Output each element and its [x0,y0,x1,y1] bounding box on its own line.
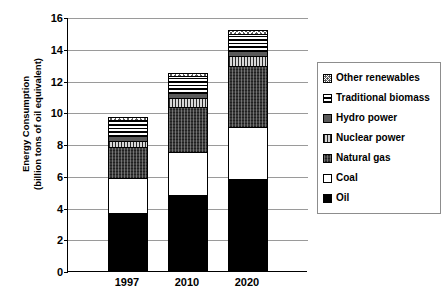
plot-area: 0246810121416 [67,18,307,272]
tick-mark [64,113,68,114]
legend-swatch-icon [323,154,332,163]
bar-segment[interactable] [229,67,267,128]
y-axis-tick-label: 16 [51,12,63,24]
bar-segment[interactable] [229,180,267,270]
gridline [68,18,308,19]
legend-item[interactable]: Natural gas [318,148,440,168]
bar-segment[interactable] [169,108,207,153]
bar-segment[interactable] [229,57,267,66]
gridline [68,50,308,51]
y-axis-tick-label: 2 [57,234,63,246]
legend-item[interactable]: Coal [318,168,440,188]
legend-item[interactable]: Other renewables [318,68,440,88]
legend-label: Traditional biomass [336,93,430,103]
bar-1997[interactable] [108,117,148,271]
legend-label: Oil [336,193,349,203]
bar-segment[interactable] [109,179,147,213]
y-axis-tick-label: 6 [57,171,63,183]
legend-label: Hydro power [336,113,397,123]
y-axis-tick-label: 4 [57,203,63,215]
bar-segment[interactable] [109,214,147,270]
bar-segment[interactable] [169,196,207,270]
legend-item[interactable]: Oil [318,188,440,208]
legend-label: Natural gas [336,153,390,163]
y-axis-title: Energy Consumption (billion tons of oil … [20,24,44,224]
legend-item[interactable]: Nuclear power [318,128,440,148]
x-axis-tick-label: 2020 [207,276,287,288]
legend-item[interactable]: Traditional biomass [318,88,440,108]
chart-legend: Other renewablesTraditional biomassHydro… [317,62,441,214]
legend-swatch-icon [323,134,332,143]
tick-mark [64,209,68,210]
bar-segment[interactable] [109,148,147,179]
tick-mark [64,50,68,51]
legend-swatch-icon [323,94,332,103]
chart-container: Energy Consumption (billion tons of oil … [0,0,447,304]
y-axis-tick-label: 8 [57,139,63,151]
bar-segment[interactable] [229,128,267,180]
bar-segment[interactable] [169,99,207,108]
legend-item[interactable]: Hydro power [318,108,440,128]
bar-2020[interactable] [228,30,268,271]
bar-segment[interactable] [229,35,267,52]
legend-label: Other renewables [336,73,420,83]
bar-segment[interactable] [169,153,207,196]
tick-mark [64,18,68,19]
bar-segment[interactable] [109,121,147,137]
bar-segment[interactable] [169,77,207,94]
y-axis-tick-label: 14 [51,44,63,56]
y-axis-tick-label: 10 [51,107,63,119]
tick-mark [64,272,68,273]
legend-swatch-icon [323,174,332,183]
tick-mark [64,145,68,146]
legend-swatch-icon [323,74,332,83]
tick-mark [64,82,68,83]
y-axis-tick-label: 0 [57,266,63,278]
legend-swatch-icon [323,194,332,203]
bar-2010[interactable] [168,73,208,271]
y-axis-tick-label: 12 [51,76,63,88]
legend-label: Coal [336,173,358,183]
tick-mark [64,240,68,241]
tick-mark [64,177,68,178]
legend-swatch-icon [323,114,332,123]
legend-label: Nuclear power [336,133,405,143]
